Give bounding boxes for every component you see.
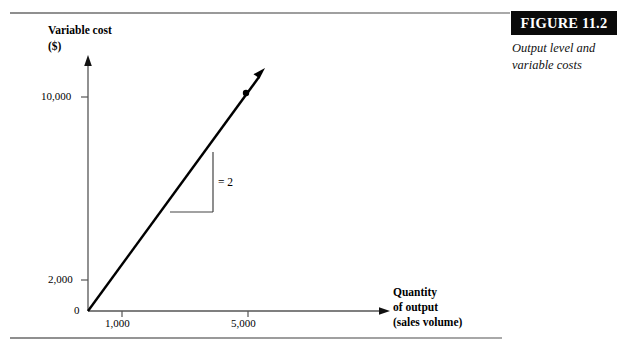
chart-plot-area bbox=[0, 0, 617, 355]
y-tick-label-10000: 10,000 bbox=[41, 90, 71, 102]
bottom-divider-rule bbox=[10, 337, 502, 339]
y-axis-title-line-1: Variable cost bbox=[48, 24, 112, 36]
x-axis bbox=[88, 307, 390, 315]
x-axis-title-line-2: of output bbox=[393, 301, 438, 313]
figure-container: FIGURE 11.2 Output level and variable co… bbox=[0, 0, 617, 355]
origin-label: 0 bbox=[74, 304, 80, 316]
slope-triangle bbox=[170, 152, 213, 212]
y-axis-ticks bbox=[81, 97, 88, 280]
x-tick-label-1000: 1,000 bbox=[105, 317, 130, 329]
y-tick-label-2000: 2,000 bbox=[48, 273, 73, 285]
variable-cost-line bbox=[88, 68, 265, 311]
y-axis-title-line-2: ($) bbox=[48, 40, 61, 52]
slope-annotation: = 2 bbox=[218, 176, 233, 188]
x-axis-title-line-1: Quantity bbox=[393, 286, 437, 298]
y-axis bbox=[84, 55, 92, 311]
x-axis-ticks bbox=[122, 311, 248, 317]
x-tick-label-5000: 5,000 bbox=[231, 317, 256, 329]
x-axis-title-line-3: (sales volume) bbox=[393, 316, 462, 328]
